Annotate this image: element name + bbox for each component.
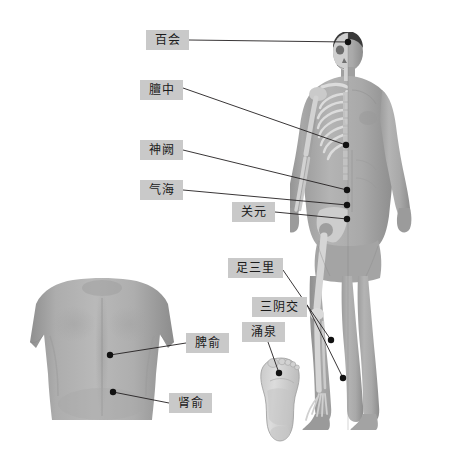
- acupoint-dot-guanyuan[interactable]: [344, 216, 350, 222]
- acupoint-dot-piyu[interactable]: [107, 352, 113, 358]
- leader-line-baihui: [189, 40, 348, 42]
- acupoint-dot-shenyu[interactable]: [110, 389, 116, 395]
- leader-line-yongquan: [268, 342, 279, 373]
- leader-line-shenyu: [113, 392, 169, 403]
- leader-line-guanyuan: [275, 212, 347, 219]
- leader-lines-and-points: [0, 0, 472, 455]
- acupoint-dot-danzhong[interactable]: [343, 142, 349, 148]
- acupoint-dot-shenque[interactable]: [344, 187, 350, 193]
- label-sanyinjiao[interactable]: 三阴交: [252, 297, 307, 317]
- acupoint-dot-zusanli[interactable]: [328, 337, 334, 343]
- label-zusanli[interactable]: 足三里: [228, 258, 283, 278]
- label-shenyu[interactable]: 肾俞: [169, 393, 212, 413]
- acupoint-dot-qihai[interactable]: [344, 202, 350, 208]
- leader-line-piyu: [110, 343, 186, 355]
- acupoint-dot-baihui[interactable]: [345, 39, 351, 45]
- acupoint-chart: 百会 膻中 神阙 气海 关元 足三里 三阴交 涌泉 脾俞 肾俞: [0, 0, 472, 455]
- label-danzhong[interactable]: 膻中: [140, 80, 183, 100]
- leader-line-shenque: [183, 150, 347, 190]
- label-piyu[interactable]: 脾俞: [186, 333, 229, 353]
- leader-line-sanyinjiao: [307, 305, 343, 378]
- label-shenque[interactable]: 神阙: [140, 140, 183, 160]
- label-baihui[interactable]: 百会: [146, 30, 189, 50]
- label-qihai[interactable]: 气海: [140, 180, 183, 200]
- leader-line-danzhong: [183, 88, 346, 145]
- acupoint-dot-yongquan[interactable]: [276, 370, 282, 376]
- label-guanyuan[interactable]: 关元: [232, 202, 275, 222]
- label-yongquan[interactable]: 涌泉: [242, 322, 285, 342]
- acupoint-dot-sanyinjiao[interactable]: [340, 375, 346, 381]
